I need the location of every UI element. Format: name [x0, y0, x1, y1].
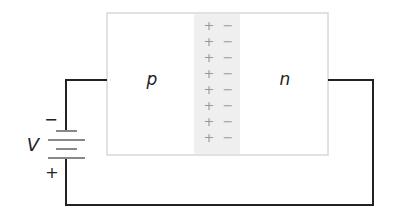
- svg-text:+: +: [204, 130, 215, 145]
- battery-negative-sign: −: [44, 110, 57, 129]
- positive-charges: + + + + + + + +: [204, 18, 215, 145]
- svg-text:+: +: [204, 66, 215, 81]
- svg-text:+: +: [204, 18, 215, 33]
- svg-text:−: −: [223, 130, 234, 145]
- pn-junction-diagram: + + + + + + + + − − − − − − − − p n V − …: [0, 0, 393, 216]
- svg-text:−: −: [223, 66, 234, 81]
- svg-text:−: −: [223, 98, 234, 113]
- battery-positive-sign: +: [45, 163, 58, 182]
- svg-text:+: +: [204, 114, 215, 129]
- svg-text:+: +: [204, 82, 215, 97]
- svg-text:−: −: [223, 114, 234, 129]
- svg-text:−: −: [223, 82, 234, 97]
- svg-text:−: −: [223, 50, 234, 65]
- battery-icon: [48, 131, 85, 158]
- svg-text:−: −: [223, 18, 234, 33]
- svg-text:+: +: [204, 50, 215, 65]
- svg-text:+: +: [204, 34, 215, 49]
- svg-text:+: +: [204, 98, 215, 113]
- p-region-label: p: [146, 69, 158, 89]
- n-region-label: n: [280, 69, 291, 89]
- voltage-label: V: [27, 134, 41, 155]
- svg-text:−: −: [223, 34, 234, 49]
- negative-charges: − − − − − − − −: [223, 18, 234, 145]
